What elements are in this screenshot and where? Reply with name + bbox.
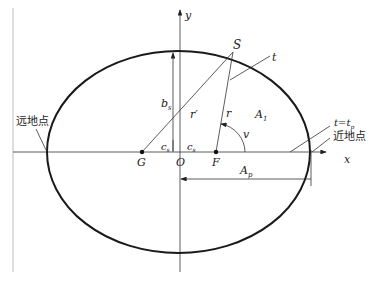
perigee-label: 近地点 bbox=[333, 130, 366, 143]
focus-point bbox=[214, 150, 218, 154]
c-left-label: cs bbox=[161, 141, 170, 153]
perigee-leader bbox=[312, 138, 330, 152]
semi-minor-label: bs bbox=[161, 97, 172, 112]
origin-label: O bbox=[176, 156, 185, 169]
area-label: A1 bbox=[254, 108, 267, 123]
r-line bbox=[216, 52, 233, 152]
tangent-label: t bbox=[272, 51, 277, 64]
focus-label: F bbox=[211, 156, 220, 169]
perigee-distance-label: Ap bbox=[239, 164, 253, 179]
c-right-label: cs bbox=[187, 141, 196, 153]
apogee-label: 远地点 bbox=[16, 115, 49, 128]
r-label: r bbox=[226, 107, 232, 120]
satellite-label: S bbox=[233, 38, 241, 52]
true-anomaly-label: v bbox=[243, 128, 250, 141]
x-axis-label: x bbox=[344, 153, 351, 166]
r-prime-line bbox=[142, 52, 233, 152]
perigee-time-label: t=tp bbox=[334, 117, 354, 131]
y-axis-label: y bbox=[184, 9, 192, 22]
empty-focus-label: G bbox=[137, 156, 146, 169]
orbit-diagram: y x O S G F bs cs cs r′ r A1 v t t=tp Ap… bbox=[0, 0, 376, 285]
apogee-leader bbox=[36, 129, 46, 150]
r-prime-label: r′ bbox=[190, 108, 198, 121]
empty-focus-point bbox=[140, 150, 144, 154]
true-anomaly-arc bbox=[221, 124, 245, 152]
